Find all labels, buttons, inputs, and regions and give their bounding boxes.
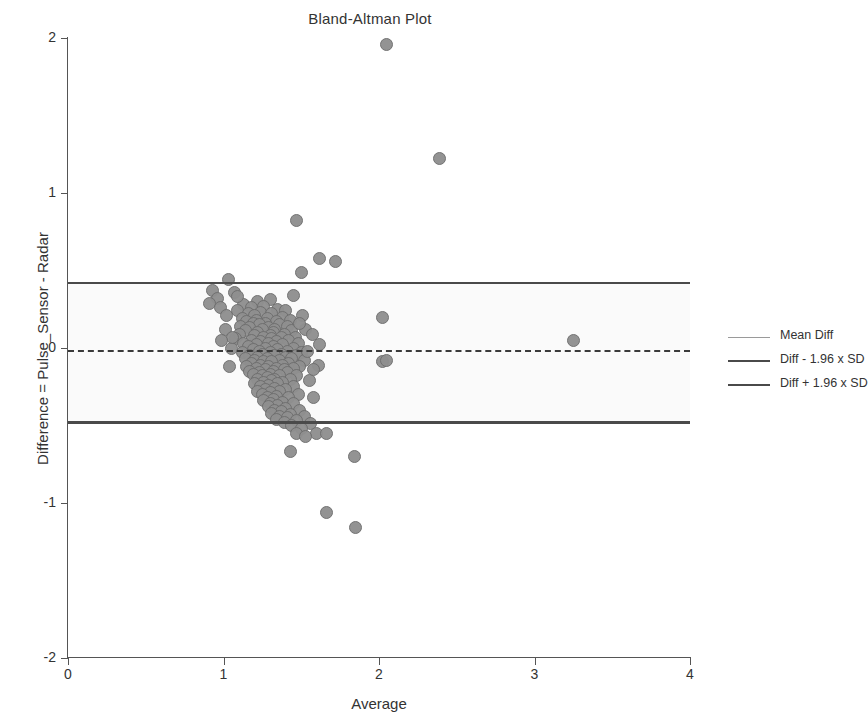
limits-of-agreement-band [68, 283, 690, 423]
data-point [320, 506, 333, 519]
legend-swatch [728, 384, 770, 386]
data-point [290, 214, 303, 227]
x-tick-mark [224, 658, 225, 665]
y-tick-mark [61, 38, 68, 39]
data-point [376, 311, 389, 324]
reference-line-diff-1-96-x-sd [68, 421, 690, 423]
y-tick-mark [61, 658, 68, 659]
data-point [313, 252, 326, 265]
reference-line-mean-diff [68, 350, 690, 352]
legend-item: Diff + 1.96 x SD [728, 374, 858, 398]
data-point [433, 152, 446, 165]
y-axis-title: Difference = Pulse_Sensor - Radar [34, 39, 51, 659]
data-point [348, 450, 361, 463]
data-point [380, 38, 393, 51]
x-tick-label: 2 [359, 666, 399, 682]
plot-area [68, 38, 690, 658]
data-point [226, 331, 239, 344]
data-point [349, 521, 362, 534]
data-point [329, 255, 342, 268]
legend-item: Diff - 1.96 x SD [728, 350, 858, 374]
x-tick-label: 0 [48, 666, 88, 682]
data-point [295, 266, 308, 279]
x-tick-label: 4 [670, 666, 710, 682]
data-point [293, 317, 306, 330]
legend-label: Mean Diff [780, 328, 833, 342]
x-tick-mark [690, 658, 691, 665]
data-point [220, 309, 233, 322]
x-tick-mark [535, 658, 536, 665]
legend-swatch [728, 360, 770, 362]
data-point [320, 427, 333, 440]
x-axis-title: Average [0, 695, 758, 712]
legend-swatch [728, 337, 770, 338]
data-point [222, 273, 235, 286]
chart-title: Bland-Altman Plot [0, 10, 740, 27]
x-tick-mark [379, 658, 380, 665]
legend-label: Diff + 1.96 x SD [780, 376, 868, 390]
reference-line-diff-1-96-x-sd [68, 282, 690, 284]
data-point [299, 430, 312, 443]
x-tick-mark [68, 658, 69, 665]
legend-item: Mean Diff [728, 326, 858, 350]
data-point [287, 289, 300, 302]
x-tick-label: 1 [204, 666, 244, 682]
y-tick-mark [61, 348, 68, 349]
x-tick-label: 3 [515, 666, 555, 682]
legend-label: Diff - 1.96 x SD [780, 352, 865, 366]
chart-legend: Mean DiffDiff - 1.96 x SDDiff + 1.96 x S… [728, 326, 858, 398]
y-tick-mark [61, 503, 68, 504]
data-point [567, 334, 580, 347]
data-point [284, 445, 297, 458]
y-tick-mark [61, 193, 68, 194]
